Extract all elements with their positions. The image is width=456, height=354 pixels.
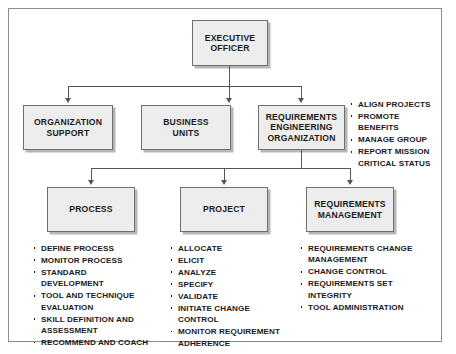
bullets-requirements-engineering-organization: ALIGN PROJECTS PROMOTE BENEFITS MANAGE G… <box>350 99 442 170</box>
node-requirements-management[interactable]: REQUIREMENTS MANAGEMENT <box>306 187 394 232</box>
node-executive-officer-label: EXECUTIVE OFFICER <box>193 33 267 54</box>
list-item: STANDARD DEVELOPMENT <box>33 267 151 290</box>
list-item: ANALYZE <box>170 267 288 278</box>
connector-level2-bus <box>68 86 302 87</box>
bullet-list-process: DEFINE PROCESS MONITOR PROCESS STANDARD … <box>33 243 151 349</box>
list-item: REPORT MISSION CRITICAL STATUS <box>350 146 442 169</box>
bullets-requirements-management: REQUIREMENTS CHANGE MANAGEMENT CHANGE CO… <box>300 243 430 314</box>
list-item: MONITOR REQUIREMENT ADHERENCE <box>170 326 288 349</box>
node-project-label: PROJECT <box>181 204 267 214</box>
bullet-list-project: ALLOCATE ELICIT ANALYZE SPECIFY VALIDATE… <box>170 243 288 349</box>
node-process-label: PROCESS <box>48 204 134 214</box>
list-item: MONITOR PROCESS <box>33 255 151 266</box>
arrow-to-business-units <box>226 98 232 103</box>
bullets-project: ALLOCATE ELICIT ANALYZE SPECIFY VALIDATE… <box>170 243 288 350</box>
node-executive-officer[interactable]: EXECUTIVE OFFICER <box>192 20 268 66</box>
arrow-to-process <box>88 180 94 185</box>
list-item: ELICIT <box>170 255 288 266</box>
arrow-to-organization-support <box>65 98 71 103</box>
list-item: TOOL ADMINISTRATION <box>300 302 430 313</box>
list-item: PROMOTE BENEFITS <box>350 111 442 134</box>
node-project[interactable]: PROJECT <box>180 187 268 232</box>
connector-exec-stem <box>229 66 230 86</box>
list-item: ALIGN PROJECTS <box>350 99 442 110</box>
arrow-to-requirements-management <box>347 180 353 185</box>
bullets-process: DEFINE PROCESS MONITOR PROCESS STANDARD … <box>33 243 151 349</box>
node-requirements-management-label: REQUIREMENTS MANAGEMENT <box>307 199 393 220</box>
connector-level3-bus <box>91 168 302 169</box>
node-business-units-label: BUSINESS UNITS <box>142 117 230 138</box>
node-business-units[interactable]: BUSINESS UNITS <box>141 105 231 150</box>
list-item: INITIATE CHANGE CONTROL <box>170 303 288 326</box>
list-item: MANAGE GROUP <box>350 134 442 145</box>
list-item: SKILL DEFINITION AND ASSESSMENT <box>33 314 151 337</box>
list-item: CHANGE CONTROL <box>300 266 430 277</box>
list-item: REQUIREMENTS SET INTEGRITY <box>300 278 430 301</box>
node-organization-support-label: ORGANIZATION SUPPORT <box>24 117 112 138</box>
list-item: VALIDATE <box>170 291 288 302</box>
bullet-list-reo: ALIGN PROJECTS PROMOTE BENEFITS MANAGE G… <box>350 99 442 169</box>
arrow-to-requirements-engineering-organization <box>298 98 304 103</box>
node-requirements-engineering-organization-label: REQUIREMENTS ENGINEERING ORGANIZATION <box>259 112 344 143</box>
arrow-to-project <box>221 180 227 185</box>
node-requirements-engineering-organization[interactable]: REQUIREMENTS ENGINEERING ORGANIZATION <box>258 105 345 150</box>
connector-reo-stem <box>301 150 302 168</box>
bullet-list-requirements-management: REQUIREMENTS CHANGE MANAGEMENT CHANGE CO… <box>300 243 430 313</box>
node-process[interactable]: PROCESS <box>47 187 135 232</box>
node-organization-support[interactable]: ORGANIZATION SUPPORT <box>23 105 113 150</box>
list-item: RECOMMEND AND COACH <box>33 337 151 348</box>
list-item: DEFINE PROCESS <box>33 243 151 254</box>
list-item: TOOL AND TECHNIQUE EVALUATION <box>33 290 151 313</box>
list-item: REQUIREMENTS CHANGE MANAGEMENT <box>300 243 430 266</box>
list-item: SPECIFY <box>170 279 288 290</box>
connector-level3-bus-right <box>301 168 351 169</box>
org-chart-diagram: EXECUTIVE OFFICER ORGANIZATION SUPPORT B… <box>0 0 456 354</box>
list-item: ALLOCATE <box>170 243 288 254</box>
